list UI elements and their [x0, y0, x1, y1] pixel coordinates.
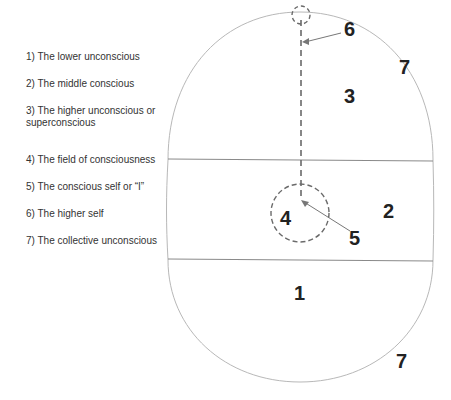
label-5: 5 — [349, 227, 360, 249]
label-1: 1 — [294, 282, 305, 304]
arrow-5 — [304, 202, 350, 231]
label-2: 2 — [383, 200, 394, 222]
label-6: 6 — [344, 18, 355, 40]
lower-band-line — [168, 259, 433, 261]
arrowhead-6 — [302, 38, 309, 45]
arrow-6 — [305, 33, 341, 42]
egg-outline — [167, 12, 434, 382]
label-4: 4 — [280, 207, 292, 229]
label-7-top: 7 — [399, 56, 410, 78]
egg-diagram: 6 7 3 2 4 5 1 7 — [0, 0, 451, 400]
label-3: 3 — [344, 85, 355, 107]
arrowhead-5 — [301, 200, 309, 207]
label-7-bottom: 7 — [396, 350, 407, 372]
